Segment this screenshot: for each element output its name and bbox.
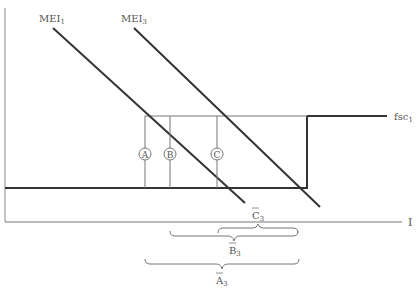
brace-c3-label: C3 bbox=[252, 210, 264, 223]
brace-c3 bbox=[218, 224, 298, 233]
x-axis-label: I bbox=[408, 216, 412, 229]
economics-diagram: I fsc1 MEI1 MEI3 A B C C3 B3 A3 bbox=[0, 0, 417, 292]
point-b-marker: B bbox=[164, 148, 176, 160]
brace-a3-label: A3 bbox=[215, 275, 228, 288]
point-a-marker: A bbox=[139, 148, 151, 160]
mei3-curve bbox=[134, 28, 320, 207]
svg-text:A: A bbox=[141, 150, 149, 160]
point-c-marker: C bbox=[211, 148, 223, 160]
mei3-label: MEI3 bbox=[121, 13, 147, 26]
brace-b3-label: B3 bbox=[229, 245, 241, 258]
svg-text:B: B bbox=[167, 150, 174, 160]
brace-a3 bbox=[145, 259, 299, 269]
brace-b3 bbox=[170, 231, 298, 241]
fsc-label: fsc1 bbox=[394, 111, 413, 124]
mei1-label: MEI1 bbox=[39, 13, 65, 26]
svg-text:C: C bbox=[214, 150, 221, 160]
